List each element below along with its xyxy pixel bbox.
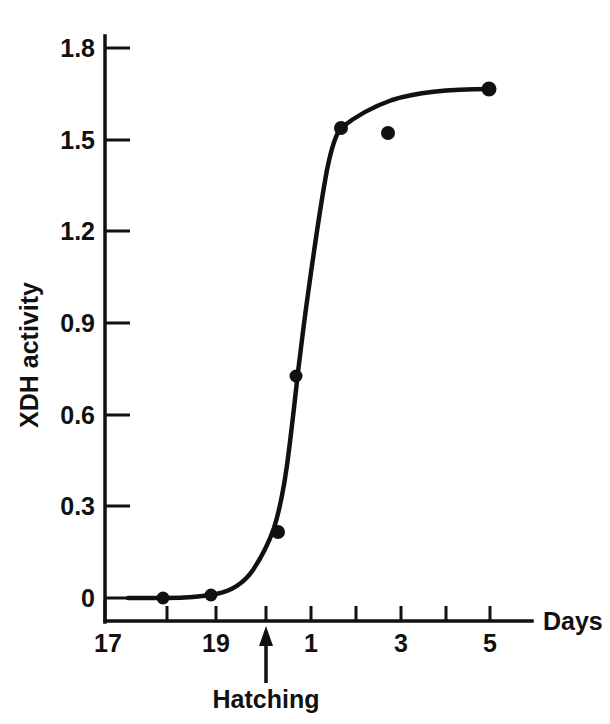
data-point-day19 [205, 589, 218, 602]
x-tick-label-5: 5 [483, 629, 497, 657]
chart-background [0, 0, 610, 724]
chart-figure: 1.8 1.5 1.2 0.9 0.6 0.3 0 XDH activity [0, 0, 610, 724]
x-tick-label-19: 19 [202, 629, 230, 657]
y-axis-title: XDH activity [15, 282, 43, 428]
x-axis-title: Days [543, 607, 603, 635]
data-point-day1 [290, 370, 303, 383]
y-tick-label-0.6: 0.6 [60, 401, 95, 429]
data-point-day20-5 [271, 525, 285, 539]
y-tick-label-1.2: 1.2 [60, 217, 95, 245]
data-point-day2 [334, 121, 348, 135]
xdh-activity-line-chart: 1.8 1.5 1.2 0.9 0.6 0.3 0 XDH activity [0, 0, 610, 724]
y-tick-label-0.9: 0.9 [60, 309, 95, 337]
x-tick-label-3: 3 [394, 629, 408, 657]
x-tick-label-17: 17 [94, 629, 122, 657]
y-tick-label-1.8: 1.8 [60, 34, 95, 62]
data-point-day3 [381, 126, 395, 140]
x-tick-label-1: 1 [304, 629, 318, 657]
data-point-day5 [482, 82, 497, 97]
y-tick-label-1.5: 1.5 [60, 126, 95, 154]
y-tick-label-0: 0 [81, 584, 95, 612]
y-tick-label-0.3: 0.3 [60, 492, 95, 520]
hatching-label: Hatching [213, 685, 320, 713]
data-point-day18 [157, 592, 170, 605]
